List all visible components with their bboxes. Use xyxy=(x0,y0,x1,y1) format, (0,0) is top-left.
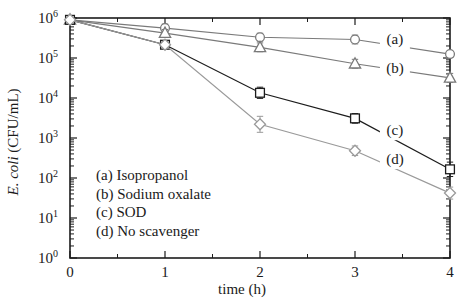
y-tick-exponent: 2 xyxy=(53,168,58,179)
marker-diamond xyxy=(350,145,361,156)
marker-square xyxy=(446,165,455,174)
legend-entry-3: (d) No scavenger xyxy=(96,223,199,240)
y-tick-label: 102 xyxy=(38,168,58,186)
legend-entry-1: (b) Sodium oxalate xyxy=(96,186,211,203)
curve-label-c: (c) xyxy=(387,122,404,139)
y-tick-label: 101 xyxy=(38,208,58,226)
x-tick-label: 0 xyxy=(66,264,74,280)
curve-label-a: (a) xyxy=(387,31,404,48)
y-axis-title-rest: (CFU/mL) xyxy=(5,88,22,156)
legend-entry-2: (c) SOD xyxy=(96,204,147,221)
y-tick-exponent: 3 xyxy=(53,128,58,139)
x-tick-label: 3 xyxy=(351,264,359,280)
y-tick-label: 100 xyxy=(38,248,58,266)
curve-label-d: (d) xyxy=(386,151,404,168)
marker-square xyxy=(256,88,265,97)
legend-entry-0: (a) Isopropanol xyxy=(96,167,188,184)
y-tick-label: 103 xyxy=(38,128,58,146)
y-tick-exponent: 0 xyxy=(53,248,58,259)
y-axis-title: E. coli (CFU/mL) xyxy=(5,88,22,196)
x-tick-label: 2 xyxy=(256,264,264,280)
y-tick-exponent: 5 xyxy=(53,48,58,59)
x-tick-label: 1 xyxy=(161,264,169,280)
marker-diamond xyxy=(445,188,456,199)
chart-figure: 10010110210310410510601234time (h)E. col… xyxy=(0,0,472,305)
y-axis-title-italic: E. coli xyxy=(5,156,21,196)
curve-label-b: (b) xyxy=(386,60,404,77)
marker-circle xyxy=(351,35,360,44)
y-tick-label: 106 xyxy=(38,8,58,26)
y-tick-label: 105 xyxy=(38,48,58,66)
y-tick-exponent: 1 xyxy=(53,208,58,219)
marker-circle xyxy=(446,50,455,59)
y-tick-label: 104 xyxy=(38,88,58,106)
marker-square xyxy=(351,114,360,123)
x-tick-label: 4 xyxy=(446,264,454,280)
x-axis-title: time (h) xyxy=(218,281,266,298)
y-tick-exponent: 4 xyxy=(53,88,58,99)
y-tick-exponent: 6 xyxy=(53,8,58,19)
chart-canvas: 10010110210310410510601234time (h)E. col… xyxy=(0,0,472,305)
